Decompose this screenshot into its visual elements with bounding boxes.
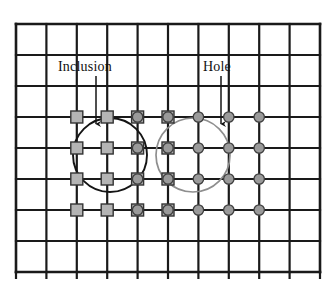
marker-circle-hole-node bbox=[163, 205, 173, 215]
marker-circle-hole-node bbox=[163, 174, 173, 184]
marker-circle-hole-node bbox=[193, 174, 203, 184]
marker-circle-hole-node bbox=[254, 112, 264, 122]
marker-square-inclusion-node bbox=[71, 173, 83, 185]
marker-circle-hole-node bbox=[132, 112, 142, 122]
marker-square-inclusion-node bbox=[71, 204, 83, 216]
marker-circle-hole-node bbox=[132, 205, 142, 215]
region-circles bbox=[73, 118, 230, 192]
marker-square-inclusion-node bbox=[101, 142, 113, 154]
marker-circle-hole-node bbox=[132, 174, 142, 184]
marker-circle-hole-node bbox=[224, 143, 234, 153]
marker-circle-hole-node bbox=[193, 143, 203, 153]
figure-root: Inclusion Hole bbox=[0, 0, 336, 295]
marker-circle-hole-node bbox=[254, 174, 264, 184]
label-inclusion: Inclusion bbox=[58, 59, 112, 75]
marker-square-inclusion-node bbox=[101, 173, 113, 185]
marker-circle-hole-node bbox=[224, 174, 234, 184]
marker-circle-hole-node bbox=[224, 112, 234, 122]
label-hole: Hole bbox=[203, 59, 231, 75]
marker-circle-hole-node bbox=[193, 112, 203, 122]
marker-square-inclusion-node bbox=[71, 142, 83, 154]
marker-circle-hole-node bbox=[254, 205, 264, 215]
marker-circle-hole-node bbox=[193, 205, 203, 215]
marker-circle-hole-node bbox=[163, 143, 173, 153]
marker-square-inclusion-node bbox=[101, 204, 113, 216]
marker-circle-hole-node bbox=[254, 143, 264, 153]
marker-circle-hole-node bbox=[224, 205, 234, 215]
marker-square-inclusion-node bbox=[71, 111, 83, 123]
marker-square-inclusion-node bbox=[101, 111, 113, 123]
marker-circle-hole-node bbox=[163, 112, 173, 122]
mesh-diagram-svg bbox=[0, 0, 336, 295]
marker-circle-hole-node bbox=[132, 143, 142, 153]
